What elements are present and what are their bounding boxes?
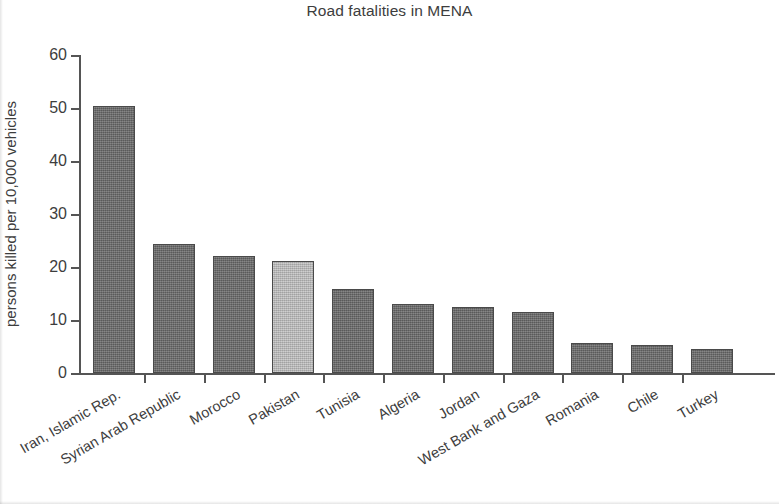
y-axis-line [79, 55, 81, 373]
y-tick-label: 0 [58, 364, 67, 382]
y-tick-mark [71, 320, 79, 322]
x-category-label-text: Jordan [435, 386, 481, 422]
bar [93, 106, 135, 373]
chart-title: Road fatalities in MENA [0, 2, 779, 20]
y-tick-mark [71, 267, 79, 269]
y-tick-label: 20 [49, 258, 67, 276]
bar-chart: Road fatalities in MENA persons killed p… [0, 0, 779, 504]
x-category-label-text: Chile [625, 386, 662, 416]
y-tick-label: 60 [49, 46, 67, 64]
y-tick-mark [71, 55, 79, 57]
bar [392, 304, 434, 373]
y-tick-label: 10 [49, 311, 67, 329]
y-tick-label: 40 [49, 152, 67, 170]
y-tick-mark [71, 161, 79, 163]
y-tick-label: 30 [49, 205, 67, 223]
x-category-label-text: Algeria [375, 386, 422, 422]
x-category-label-text: Turkey [675, 386, 721, 422]
bar [272, 261, 314, 373]
y-tick-mark [71, 373, 79, 375]
scan-edge-left [0, 0, 3, 504]
bar [512, 312, 554, 373]
y-axis-title: persons killed per 10,000 vehicles [0, 55, 22, 373]
plot-area: 0102030405060 [79, 55, 775, 373]
x-category-label-text: Tunisia [314, 386, 362, 423]
y-tick-mark [71, 214, 79, 216]
y-tick-label: 50 [49, 99, 67, 117]
y-tick-mark [71, 108, 79, 110]
bar [452, 307, 494, 373]
bar [691, 349, 733, 373]
